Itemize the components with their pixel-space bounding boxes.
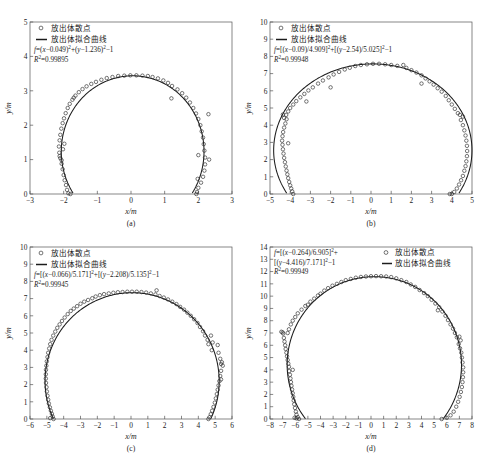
x-tick-label: 6 [445, 421, 449, 430]
x-tick-label: 4 [450, 196, 454, 205]
legend-scatter-label: 放出体散点 [51, 248, 91, 258]
svg-text:f=(x−0.049)2+(y−1.236)2−1: f=(x−0.049)2+(y−1.236)2−1 [34, 44, 114, 54]
y-tick-label: 3 [24, 363, 28, 372]
x-axis-title: x/m [124, 432, 137, 441]
x-tick-label: 3 [430, 196, 434, 205]
x-tick-label: 5 [213, 421, 217, 430]
x-tick-label: 1 [389, 196, 393, 205]
legend-fit-label: 放出体拟合曲线 [51, 259, 107, 269]
x-tick-label: −1 [93, 196, 101, 205]
panel-d: −8−7−6−5−4−3−2−1012345678012345678910111… [240, 233, 479, 457]
x-tick-label: 6 [230, 421, 234, 430]
x-tick-label: −3 [329, 421, 337, 430]
scatter-series [57, 74, 211, 196]
x-tick-label: 1 [382, 421, 386, 430]
x-tick-label: 1 [146, 421, 150, 430]
legend-fit-label: 放出体拟合曲线 [51, 34, 107, 44]
x-tick-label: 3 [407, 421, 411, 430]
x-tick-label: −6 [291, 421, 299, 430]
x-tick-label: −4 [286, 196, 294, 205]
svg-text:f=[(x−0.066)/5.171]2+[(y−2.208: f=[(x−0.066)/5.171]2+[(y−2.208)/5.135]2−… [34, 269, 160, 279]
y-axis-title: y/m [4, 102, 13, 115]
x-tick-label: −5 [43, 421, 51, 430]
legend-fit-label: 放出体拟合曲线 [395, 258, 451, 268]
plot-d: −8−7−6−5−4−3−2−1012345678012345678910111… [240, 233, 479, 457]
x-axis-title: x/m [124, 207, 137, 216]
y-tick-label: 5 [264, 353, 268, 362]
x-tick-label: −3 [77, 421, 85, 430]
y-tick-label: 1 [24, 155, 28, 164]
x-tick-label: 2 [394, 421, 398, 430]
x-tick-label: −2 [60, 196, 68, 205]
y-tick-label: 12 [260, 267, 268, 276]
x-tick-label: 3 [180, 421, 184, 430]
x-tick-label: −4 [60, 421, 68, 430]
x-tick-label: 7 [458, 421, 462, 430]
x-tick-label: 1 [163, 196, 167, 205]
svg-text:f=[(x−0.264)/6.905]2+: f=[(x−0.264)/6.905]2+ [274, 247, 338, 257]
panel-label: (d) [367, 444, 376, 453]
svg-text:[(y−4.416)/7.171]2−1: [(y−4.416)/7.171]2−1 [274, 257, 336, 267]
scatter-series [280, 274, 465, 420]
y-tick-label: 4 [264, 121, 268, 130]
y-axis-title: y/m [244, 102, 253, 115]
y-tick-label: 2 [264, 155, 268, 164]
x-tick-label: 2 [196, 196, 200, 205]
y-tick-label: 6 [264, 87, 268, 96]
fit-curve [287, 277, 461, 419]
x-tick-label: 0 [129, 196, 133, 205]
x-axis-title: x/m [364, 432, 377, 441]
y-tick-label: 1 [24, 398, 28, 407]
y-tick-label: 3 [24, 87, 28, 96]
x-tick-label: −2 [327, 196, 335, 205]
y-tick-label: 6 [264, 341, 268, 350]
panel-label: (c) [127, 444, 136, 453]
y-tick-label: 0 [264, 415, 268, 424]
y-tick-label: 10 [20, 243, 28, 252]
x-tick-label: −3 [306, 196, 314, 205]
y-tick-label: 2 [24, 380, 28, 389]
x-tick-label: 4 [420, 421, 424, 430]
y-tick-label: 10 [260, 292, 268, 301]
plot-a: −3−2−10123012345x/my/m(a)放出体散点放出体拟合曲线f=(… [0, 8, 239, 236]
plot-c: −6−5−4−3−2−10123456012345678910x/my/m(c)… [0, 233, 239, 457]
y-axis-title: y/m [244, 327, 253, 340]
y-tick-label: 0 [264, 190, 268, 199]
x-tick-label: −2 [93, 421, 101, 430]
y-tick-label: 1 [264, 402, 268, 411]
y-tick-label: 7 [264, 69, 268, 78]
y-tick-label: 1 [264, 173, 268, 182]
panel-b: −5−4−3−2−1012345012345678910x/my/m(b)放出体… [240, 8, 479, 236]
x-tick-label: 0 [369, 196, 373, 205]
plot-b: −5−4−3−2−1012345012345678910x/my/m(b)放出体… [240, 8, 479, 236]
y-tick-label: 4 [24, 346, 28, 355]
legend-scatter-label: 放出体散点 [51, 23, 91, 33]
legend-scatter-label: 放出体散点 [395, 247, 435, 257]
y-axis-title: y/m [4, 327, 13, 340]
y-tick-label: 2 [24, 121, 28, 130]
svg-text:R2=0.99945: R2=0.99945 [33, 279, 69, 289]
y-tick-label: 8 [264, 316, 268, 325]
y-tick-label: 5 [24, 329, 28, 338]
legend: f=[(x−0.264)/6.905]2+[(y−4.416)/7.171]2−… [273, 247, 451, 276]
y-tick-label: 10 [260, 18, 268, 27]
x-tick-label: −1 [110, 421, 118, 430]
y-tick-label: 11 [260, 280, 267, 289]
y-tick-label: 9 [264, 304, 268, 313]
y-tick-label: 7 [24, 294, 28, 303]
x-tick-label: 2 [410, 196, 414, 205]
x-axis-title: x/m [364, 207, 377, 216]
y-tick-label: 0 [24, 415, 28, 424]
fit-curve [274, 64, 472, 193]
panel-label: (b) [367, 219, 376, 228]
y-tick-label: 9 [264, 35, 268, 44]
x-tick-label: −7 [279, 421, 287, 430]
legend: 放出体散点放出体拟合曲线f=[(x−0.066)/5.171]2+[(y−2.2… [33, 248, 160, 289]
y-tick-label: 4 [24, 52, 28, 61]
y-tick-label: 9 [24, 260, 28, 269]
fit-curve [45, 293, 219, 419]
svg-text:R2=0.99895: R2=0.99895 [33, 54, 69, 64]
x-tick-label: 4 [196, 421, 200, 430]
scatter-series [280, 62, 469, 196]
y-tick-label: 4 [264, 366, 268, 375]
